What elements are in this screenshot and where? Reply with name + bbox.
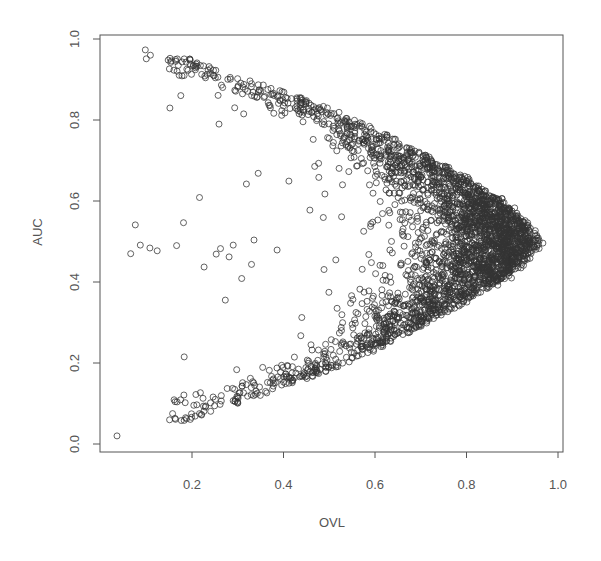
y-tick-label: 0.8 xyxy=(67,111,82,129)
x-tick-label: 0.6 xyxy=(366,477,384,492)
y-tick-label: 0.6 xyxy=(67,192,82,210)
y-tick-label: 0.2 xyxy=(67,354,82,372)
x-tick-label: 0.2 xyxy=(183,477,201,492)
x-axis-title: OVL xyxy=(319,515,345,530)
y-axis-title: AUC xyxy=(30,218,45,245)
x-tick-label: 1.0 xyxy=(549,477,567,492)
y-tick-label: 0.0 xyxy=(67,435,82,453)
x-tick-label: 0.4 xyxy=(274,477,292,492)
scatter-chart: 0.20.40.60.81.0 0.00.20.40.60.81.0 OVL A… xyxy=(0,0,601,561)
y-tick-label: 0.4 xyxy=(67,273,82,291)
y-tick-label: 1.0 xyxy=(67,30,82,48)
x-tick-label: 0.8 xyxy=(457,477,475,492)
